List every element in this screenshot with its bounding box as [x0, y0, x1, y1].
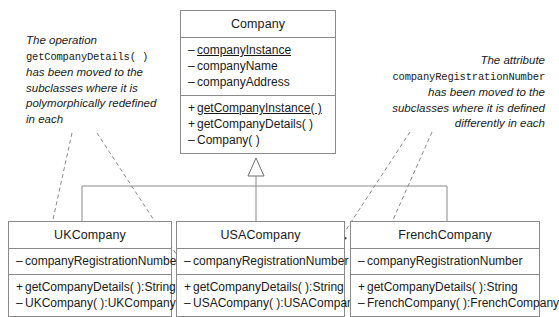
attribute-row: –companyRegistrationNumber [9, 253, 171, 269]
note-left-code: getCompanyDetails( ) [26, 51, 148, 63]
note-left-line2: has been moved to the [26, 66, 143, 78]
annotation-note-left: The operation getCompanyDetails( ) has b… [26, 33, 186, 127]
operation-compartment-usacompany: +getCompanyDetails( ):String –USACompany… [177, 274, 344, 316]
attribute-compartment-usacompany: –companyRegistrationNumber [177, 248, 344, 274]
member-label: getCompanyInstance( ) [197, 101, 322, 115]
visibility-marker: – [188, 74, 197, 90]
note-right-line2: has been moved to the [428, 86, 545, 98]
member-label: USACompany( ):USACompany [193, 296, 360, 310]
attribute-row: –companyInstance [181, 42, 335, 58]
member-label: companyRegistrationNumber [25, 254, 180, 268]
note-right-line1: The attribute [480, 54, 545, 66]
member-label: getCompanyDetails( ):String [367, 280, 518, 294]
generalization-connector [82, 158, 447, 221]
operation-compartment-company: +getCompanyInstance( ) +getCompanyDetail… [181, 95, 335, 153]
class-name-ukcompany: UKCompany [9, 222, 171, 248]
visibility-marker: – [188, 132, 197, 148]
visibility-marker: + [188, 100, 197, 116]
uml-class-ukcompany[interactable]: UKCompany –companyRegistrationNumber +ge… [8, 221, 172, 317]
class-name-frenchcompany: FrenchCompany [351, 222, 539, 248]
visibility-marker: – [184, 253, 193, 269]
attribute-row: –companyAddress [181, 74, 335, 90]
annotation-note-right: The attribute companyRegistrationNumber … [345, 53, 545, 132]
operation-compartment-frenchcompany: +getCompanyDetails( ):String –FrenchComp… [351, 274, 539, 316]
note-right-line4: differently in each [455, 117, 545, 129]
visibility-marker: – [16, 295, 25, 311]
member-label: getCompanyDetails( ):String [193, 280, 344, 294]
operation-row: –USACompany( ):USACompany [177, 295, 344, 311]
visibility-marker: + [184, 279, 193, 295]
operation-row: –UKCompany( ):UKCompany [9, 295, 171, 311]
operation-row: –FrenchCompany( ):FrenchCompany [351, 295, 539, 311]
attribute-row: –companyRegistrationNumber [351, 253, 539, 269]
note-left-line4: polymorphically redefined [26, 97, 156, 109]
attribute-row: –companyRegistrationNumber [177, 253, 344, 269]
visibility-marker: – [16, 253, 25, 269]
operation-row: +getCompanyDetails( ):String [9, 279, 171, 295]
member-label: companyName [197, 59, 278, 73]
note-left-line1: The operation [26, 34, 97, 46]
attribute-compartment-frenchcompany: –companyRegistrationNumber [351, 248, 539, 274]
attribute-compartment-company: –companyInstance –companyName –companyAd… [181, 37, 335, 95]
operation-row: +getCompanyDetails( ):String [177, 279, 344, 295]
uml-class-frenchcompany[interactable]: FrenchCompany –companyRegistrationNumber… [350, 221, 540, 317]
member-label: UKCompany( ):UKCompany [25, 296, 176, 310]
visibility-marker: – [358, 295, 367, 311]
visibility-marker: – [188, 58, 197, 74]
uml-class-company[interactable]: Company –companyInstance –companyName –c… [180, 10, 336, 154]
visibility-marker: – [188, 42, 197, 58]
member-label: companyRegistrationNumber [367, 254, 522, 268]
operation-row: +getCompanyDetails( ):String [351, 279, 539, 295]
attribute-compartment-ukcompany: –companyRegistrationNumber [9, 248, 171, 274]
member-label: getCompanyDetails( ):String [25, 280, 176, 294]
member-label: companyInstance [197, 43, 291, 57]
visibility-marker: + [358, 279, 367, 295]
note-right-line3: subclasses where it is defined [392, 102, 545, 114]
uml-class-usacompany[interactable]: USACompany –companyRegistrationNumber +g… [176, 221, 345, 317]
visibility-marker: – [184, 295, 193, 311]
note-left-line3: subclasses where it is [26, 82, 138, 94]
operation-row: +getCompanyDetails( ) [181, 116, 335, 132]
class-name-company: Company [181, 11, 335, 37]
member-label: Company( ) [197, 133, 260, 147]
operation-compartment-ukcompany: +getCompanyDetails( ):String –UKCompany(… [9, 274, 171, 316]
member-label: getCompanyDetails( ) [197, 117, 313, 131]
note-right-code: companyRegistrationNumber [392, 71, 545, 83]
visibility-marker: + [16, 279, 25, 295]
class-name-usacompany: USACompany [177, 222, 344, 248]
note-left-line5: in each [26, 113, 63, 125]
operation-row: –Company( ) [181, 132, 335, 148]
visibility-marker: – [358, 253, 367, 269]
member-label: FrenchCompany( ):FrenchCompany [367, 296, 559, 310]
visibility-marker: + [188, 116, 197, 132]
member-label: companyRegistrationNumber [193, 254, 348, 268]
operation-row: +getCompanyInstance( ) [181, 100, 335, 116]
member-label: companyAddress [197, 75, 290, 89]
attribute-row: –companyName [181, 58, 335, 74]
